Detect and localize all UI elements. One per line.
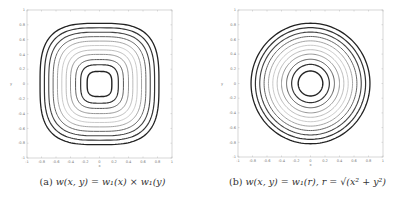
contour-line xyxy=(260,32,362,135)
x-tick-label: 1 xyxy=(382,159,384,163)
subfigure-a: -1-0.8-0.6-0.4-0.200.20.40.60.81-1-0.8-0… xyxy=(0,0,205,206)
y-tick-label: 0 xyxy=(23,82,26,86)
y-tick-label: -0.4 xyxy=(18,112,26,116)
y-tick-label: -0.2 xyxy=(229,96,236,100)
x-tick-label: 0.2 xyxy=(111,160,117,164)
subfigure-b: -1-0.8-0.6-0.4-0.200.20.40.60.81-1-0.8-0… xyxy=(205,0,410,206)
y-tick-label: 0.8 xyxy=(19,23,25,27)
contour-line xyxy=(87,71,112,96)
contour-line xyxy=(264,36,357,130)
x-tick-label: -0.4 xyxy=(67,160,75,164)
y-tick-label: -0.8 xyxy=(229,141,237,145)
contour-line xyxy=(298,71,323,96)
y-tick-label: 1 xyxy=(23,8,25,12)
y-tick-label: -0.8 xyxy=(18,141,26,145)
x-tick-label: 0.6 xyxy=(351,159,357,163)
y-axis-label: y xyxy=(221,82,224,86)
x-tick-label: 0.6 xyxy=(140,160,146,164)
y-tick-label: 0.4 xyxy=(19,53,25,57)
x-axis-label: x xyxy=(309,163,312,167)
contour-line xyxy=(273,45,348,121)
contour-line xyxy=(287,59,335,108)
y-tick-label: 0.6 xyxy=(230,38,236,42)
x-tick-label: -0.8 xyxy=(38,160,46,164)
x-tick-label: 0.4 xyxy=(126,160,132,164)
x-tick-label: -0.4 xyxy=(278,159,286,163)
caption-a-expression: w(x, y) = w₁(x) × w₁(y) xyxy=(56,176,166,187)
contour-line xyxy=(49,32,151,136)
contour-line xyxy=(53,37,146,132)
y-tick-label: -0.2 xyxy=(18,97,25,101)
contour-line xyxy=(76,60,124,109)
x-tick-label: -0.8 xyxy=(249,159,257,163)
x-tick-label: -1 xyxy=(25,160,29,164)
caption-b: (b) w(x, y) = w₁(r), r = √(x² + y²) xyxy=(205,176,410,187)
y-tick-label: 0.8 xyxy=(230,23,236,27)
y-tick-label: 0 xyxy=(234,82,237,86)
contour-line xyxy=(277,50,344,118)
x-tick-label: 0.8 xyxy=(155,160,161,164)
caption-b-label: (b) xyxy=(229,176,243,187)
x-tick-label: -0.6 xyxy=(52,160,60,164)
contour-line xyxy=(292,64,330,102)
y-tick-label: 0.6 xyxy=(19,38,25,42)
x-tick-label: 0.8 xyxy=(366,159,372,163)
caption-a-label: (a) xyxy=(40,176,53,187)
contour-line xyxy=(282,54,340,113)
caption-b-expression: w(x, y) = w₁(r), r = √(x² + y²) xyxy=(245,176,386,187)
y-tick-label: 0.2 xyxy=(19,67,25,71)
y-tick-label: -1 xyxy=(232,155,236,159)
y-tick-label: -0.6 xyxy=(229,126,237,130)
contour-line xyxy=(62,46,137,123)
y-tick-label: 0.2 xyxy=(230,67,236,71)
contour-line xyxy=(255,28,365,140)
x-tick-label: -0.2 xyxy=(81,160,88,164)
y-tick-label: -0.4 xyxy=(229,111,237,115)
x-tick-label: 1 xyxy=(171,160,173,164)
y-tick-label: -0.6 xyxy=(18,127,26,131)
y-axis-label: y xyxy=(10,82,13,86)
y-tick-label: 0.4 xyxy=(230,52,236,56)
x-tick-label: -1 xyxy=(236,159,240,163)
y-tick-label: 1 xyxy=(234,8,236,12)
contour-line xyxy=(81,65,119,103)
x-tick-label: 0.2 xyxy=(322,159,328,163)
contour-line xyxy=(71,54,129,113)
x-tick-label: -0.2 xyxy=(292,159,299,163)
x-tick-label: 0.4 xyxy=(337,159,343,163)
caption-a: (a) w(x, y) = w₁(x) × w₁(y) xyxy=(0,176,205,187)
x-tick-label: -0.6 xyxy=(263,159,271,163)
y-tick-label: -1 xyxy=(21,156,25,160)
contour-line xyxy=(44,28,154,140)
x-axis-label: x xyxy=(98,164,101,168)
